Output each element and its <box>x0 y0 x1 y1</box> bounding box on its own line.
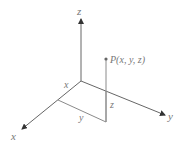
z-axis-label: z <box>76 5 82 17</box>
projection-y-label: y <box>78 112 84 123</box>
projection-x-label: x <box>63 79 69 90</box>
coordinate-diagram: z y x P(x, y, z) x y z <box>0 0 178 150</box>
y-axis-label: y <box>167 110 173 122</box>
x-axis-label: x <box>10 130 16 142</box>
x-axis <box>22 81 81 129</box>
y-axis <box>81 81 165 115</box>
point-p-label: P(x, y, z) <box>109 54 146 66</box>
projection-z-label: z <box>109 99 114 110</box>
point-p-marker <box>104 57 107 60</box>
